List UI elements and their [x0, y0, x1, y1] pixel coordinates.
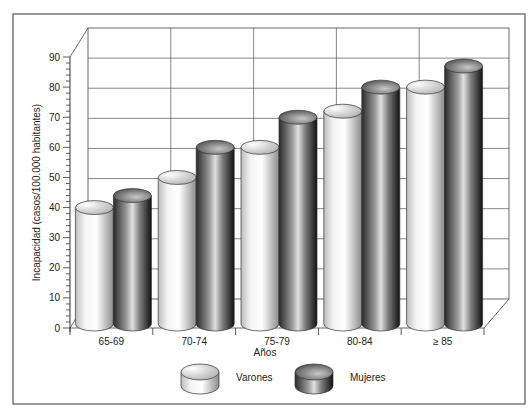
bar-mujeres-1 — [196, 140, 234, 331]
cylinder-top — [75, 201, 113, 215]
bar-varones-2 — [241, 140, 279, 331]
bar-mujeres-3 — [362, 80, 400, 331]
y-tick-label: 70 — [49, 112, 61, 123]
side-wall-top-edge — [70, 28, 88, 57]
cylinder-top — [113, 189, 151, 203]
bar-mujeres-0 — [113, 189, 151, 331]
bar-varones-4 — [407, 80, 445, 331]
bar-chart: 0102030405060708090Incapacidad (casos/10… — [0, 0, 532, 414]
cylinder-top — [445, 59, 483, 73]
bar-varones-3 — [324, 104, 362, 331]
x-tick-label: 80-84 — [347, 336, 373, 347]
x-tick-label: ≥ 85 — [433, 336, 453, 347]
cylinder-body — [158, 177, 196, 331]
legend-swatch-top — [181, 364, 219, 380]
cylinder-top — [279, 110, 317, 124]
cylinder-body — [196, 147, 234, 331]
x-tick-label: 65-69 — [99, 336, 125, 347]
bar-varones-0 — [75, 201, 113, 331]
y-tick-label: 90 — [49, 52, 61, 63]
cylinder-body — [362, 87, 400, 331]
y-tick-label: 40 — [49, 202, 61, 213]
legend-item-mujeres: Mujeres — [295, 364, 386, 394]
bar-mujeres-2 — [279, 110, 317, 331]
y-tick-label: 80 — [49, 82, 61, 93]
cylinder-top — [196, 140, 234, 154]
cylinder-body — [445, 66, 483, 331]
x-tick-label: 70-74 — [181, 336, 207, 347]
y-tick-label: 0 — [54, 323, 60, 334]
cylinder-body — [113, 196, 151, 331]
bar-varones-1 — [158, 170, 196, 331]
y-tick-label: 10 — [49, 292, 61, 303]
cylinder-top — [324, 104, 362, 118]
legend-label: Mujeres — [350, 372, 386, 383]
y-tick-label: 50 — [49, 172, 61, 183]
bar-mujeres-4 — [445, 59, 483, 331]
legend-label: Varones — [236, 372, 273, 383]
cylinder-body — [75, 208, 113, 331]
y-tick-label: 20 — [49, 262, 61, 273]
cylinder-body — [279, 117, 317, 331]
legend-item-varones: Varones — [181, 364, 273, 394]
cylinder-top — [407, 80, 445, 94]
cylinder-body — [324, 111, 362, 331]
y-axis-title: Incapacidad (casos/100.000 habitantes) — [31, 104, 42, 281]
y-tick-label: 60 — [49, 142, 61, 153]
cylinder-top — [241, 140, 279, 154]
cylinder-body — [241, 147, 279, 331]
x-axis-title: Años — [254, 347, 277, 358]
legend-swatch-top — [295, 364, 333, 380]
x-tick-label: 75-79 — [264, 336, 290, 347]
floor-right-edge — [484, 299, 509, 328]
cylinder-body — [407, 87, 445, 331]
cylinder-top — [362, 80, 400, 94]
y-tick-label: 30 — [49, 232, 61, 243]
cylinder-top — [158, 170, 196, 184]
